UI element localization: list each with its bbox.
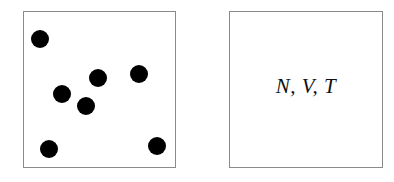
particle-dot <box>40 140 58 158</box>
particle-dot <box>148 137 166 155</box>
particle-dot <box>77 97 95 115</box>
ensemble-label: N, V, T <box>230 74 382 99</box>
ensemble-box: N, V, T <box>229 11 383 168</box>
particle-dot <box>130 65 148 83</box>
particle-dot <box>31 30 49 48</box>
particle-dot <box>89 69 107 87</box>
particle-dot <box>53 85 71 103</box>
